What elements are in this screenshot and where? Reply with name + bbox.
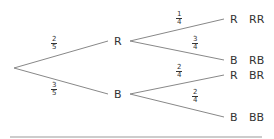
prob-R-R: 1 4 [176,11,182,26]
prob-R-B: 3 4 [192,36,198,51]
branch-root-B [14,68,108,94]
branch-R-B [130,41,224,60]
outcome-BR: BR [249,70,264,81]
outcome-RB: RB [249,55,264,66]
node-B-B: B [230,112,238,123]
branch-B-B [130,94,224,117]
prob-root-B: 3 5 [51,82,57,97]
node-R-B: B [230,55,238,66]
branch-root-R [14,41,108,68]
outcome-BB: BB [249,112,264,123]
node-B: B [114,89,122,100]
outcome-RR: RR [249,14,264,25]
node-R: R [114,36,122,47]
node-B-R: R [230,70,238,81]
prob-B-B: 2 4 [192,89,198,104]
prob-B-R: 2 4 [176,64,182,79]
node-R-R: R [230,14,238,25]
prob-root-R: 2 5 [51,36,57,51]
